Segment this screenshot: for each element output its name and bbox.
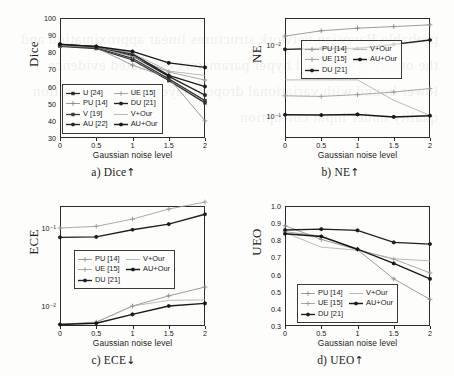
y-tick-label: 1.0: [271, 202, 281, 211]
y-tick-label: 80: [48, 48, 56, 57]
legend-item: V+Our: [353, 44, 397, 54]
x-tick-mark: [285, 326, 286, 329]
legend-label: DU [21]: [131, 98, 156, 108]
legend-label: AU+Our: [366, 298, 393, 308]
legend-line-swatch: [114, 90, 128, 97]
x-tick-label: 0.5: [316, 329, 326, 338]
series-auour: [283, 112, 432, 119]
y-tick-label: 100: [44, 14, 56, 23]
legend-line-swatch: [301, 300, 315, 307]
y-tick-label: 10⁻¹: [267, 112, 281, 121]
x-tick-label: 1.5: [164, 329, 174, 338]
legend-line-swatch: [78, 266, 92, 273]
legend-item: U [24]: [66, 88, 108, 98]
x-tick-mark: [358, 138, 359, 141]
legend-item: AU+Our: [126, 264, 170, 274]
legend-label: UE [15]: [318, 298, 343, 308]
legend-line-swatch: [353, 56, 367, 63]
x-tick-label: 1.5: [389, 329, 399, 338]
caption-text: b) NE: [321, 166, 350, 178]
x-axis-label-dice: Gaussian noise level: [60, 150, 205, 160]
x-axis-label-ueo: Gaussian noise level: [285, 338, 430, 348]
x-tick-mark: [321, 138, 322, 141]
legend-ne: PU [14]UE [15]DU [21]V+OurAU+Our: [301, 40, 402, 79]
x-tick-label: 1.5: [164, 141, 174, 150]
legend-line-swatch: [301, 311, 315, 318]
legend-line-swatch: [349, 300, 363, 307]
y-tick-label: 0.9: [271, 219, 281, 228]
caption-direction-arrow: ↑: [350, 166, 359, 179]
x-tick-label: 1.5: [389, 141, 399, 150]
y-tick-label: 0.3: [271, 322, 281, 331]
legend-label: UE [15]: [322, 54, 347, 64]
subplot-dice: Dice3040506070809010000.511.52Gaussian n…: [0, 0, 227, 188]
legend-line-swatch: [301, 290, 315, 297]
y-tick-label: 30: [48, 134, 56, 143]
x-tick-label: 2: [203, 141, 207, 150]
series-pu14: [283, 22, 433, 38]
x-tick-label: 0: [58, 329, 62, 338]
legend-ece: PU [14]UE [15]DU [21]V+OurAU+Our: [74, 250, 175, 289]
legend-item: PU [14]: [78, 254, 120, 264]
x-tick-label: 2: [203, 329, 207, 338]
y-tick-label: 50: [48, 99, 56, 108]
y-tick-label: 0.5: [271, 287, 281, 296]
legend-item: AU+Our: [353, 54, 397, 64]
legend-item: DU [21]: [301, 309, 343, 319]
x-tick-mark: [321, 326, 322, 329]
series-ue15: [58, 200, 208, 231]
x-tick-mark: [430, 326, 431, 329]
legend-item: DU [21]: [78, 275, 120, 285]
legend-line-swatch: [66, 121, 80, 128]
x-tick-label: 0: [283, 141, 287, 150]
legend-item: DU [21]: [114, 98, 158, 108]
series-vour: [285, 80, 430, 115]
y-tick-label: 0.8: [271, 236, 281, 245]
legend-label: PU [14]: [95, 254, 120, 264]
legend-line-swatch: [78, 256, 92, 263]
y-tick-label: 0.6: [271, 270, 281, 279]
x-tick-mark: [60, 326, 61, 329]
y-tick-label: 0.4: [271, 304, 281, 313]
y-tick-group-ece: 10⁻¹10⁻²: [16, 206, 56, 326]
x-tick-mark: [96, 326, 97, 329]
x-tick-mark: [60, 138, 61, 141]
series-auour: [283, 232, 432, 281]
legend-item: UE [15]: [301, 298, 343, 308]
subplot-caption-ne: b) NE↑: [227, 166, 454, 179]
legend-label: V+Our: [131, 109, 153, 119]
subplot-caption-ece: c) ECE↓: [0, 354, 227, 367]
series-du21: [283, 227, 432, 246]
x-tick-mark: [430, 138, 431, 141]
legend-item: AU+Our: [349, 298, 393, 308]
legend-item: AU [22]: [66, 119, 108, 129]
x-tick-label: 2: [428, 141, 432, 150]
x-tick-mark: [133, 138, 134, 141]
legend-line-swatch: [126, 266, 140, 273]
x-tick-mark: [169, 138, 170, 141]
x-tick-mark: [169, 326, 170, 329]
legend-line-swatch: [66, 100, 80, 107]
legend-line-swatch: [114, 121, 128, 128]
legend-label: DU [21]: [322, 65, 347, 75]
legend-label: U [24]: [83, 88, 103, 98]
legend-dice: U [24]PU [14]V [19]AU [22]UE [15]DU [21]…: [62, 84, 163, 134]
x-tick-label: 0.5: [91, 141, 101, 150]
x-tick-label: 0.5: [91, 329, 101, 338]
y-tick-label: 10⁻¹: [42, 224, 56, 233]
legend-label: PU [14]: [322, 44, 347, 54]
x-tick-mark: [205, 138, 206, 141]
x-tick-label: 0: [283, 329, 287, 338]
legend-label: UE [15]: [131, 88, 156, 98]
y-tick-label: 0.7: [271, 253, 281, 262]
y-tick-group-dice: 30405060708090100: [16, 18, 56, 138]
subplot-caption-dice: a) Dice↑: [0, 166, 227, 179]
legend-item: V [19]: [66, 109, 108, 119]
legend-item: UE [15]: [114, 88, 158, 98]
x-tick-label: 1: [356, 329, 360, 338]
x-tick-mark: [358, 326, 359, 329]
legend-line-swatch: [353, 46, 367, 53]
x-tick-mark: [394, 138, 395, 141]
legend-label: V+Our: [143, 254, 165, 264]
y-tick-group-ne: 10⁻²10⁻¹: [241, 18, 281, 138]
